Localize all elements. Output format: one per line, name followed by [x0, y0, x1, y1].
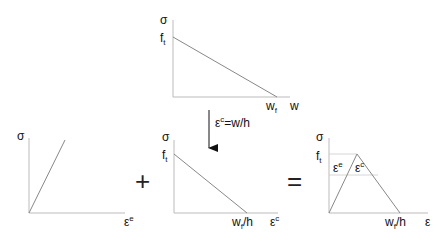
wf-tick: wf: [265, 99, 278, 115]
x-label: εe: [124, 214, 134, 229]
softening-line: [174, 154, 247, 213]
transform-label: εc=w/h: [215, 115, 250, 130]
equals-operator: =: [287, 166, 302, 196]
y-label: σ: [316, 130, 324, 144]
eps-c-label: εc: [355, 160, 364, 175]
eps-e-label: εe: [333, 160, 343, 175]
y-label: σ: [17, 129, 25, 143]
transform-arrow: εc=w/h: [209, 110, 250, 148]
ft-tick: ft: [162, 148, 168, 164]
softening-line: [173, 37, 277, 97]
y-label: σ: [162, 130, 170, 144]
x-label: ε: [425, 215, 431, 229]
right-graph: σ ft εe εc wf/h ε: [316, 130, 431, 231]
wf-h-tick: wf/h: [231, 215, 253, 231]
cohesive-crack-diagram: σ ft wf w εc=w/h σ εe + σ ft wf/h εc =: [0, 0, 445, 242]
left-graph: σ εe: [17, 129, 134, 229]
wf-h-tick: wf/h: [384, 215, 406, 231]
ft-tick: ft: [316, 149, 322, 165]
y-label: σ: [160, 13, 168, 27]
x-label: w: [289, 99, 299, 113]
plus-operator: +: [135, 166, 150, 196]
middle-graph: σ ft wf/h εc: [162, 130, 279, 231]
ft-tick: ft: [160, 31, 166, 47]
x-label: εc: [270, 214, 279, 229]
elastic-line: [29, 140, 65, 213]
top-graph: σ ft wf w: [160, 13, 299, 115]
